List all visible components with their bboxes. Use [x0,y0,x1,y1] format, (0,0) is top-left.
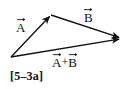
vector-addition-figure: A B A + B [5–3a] [0,0,140,89]
vector-a-letter: A [16,21,25,34]
vector-sum-operator: + [61,52,68,68]
vector-a-symbol: A [16,17,25,34]
vector-a-label: A [16,17,25,35]
vector-sum-first-symbol: A [52,52,61,69]
figure-caption: [5–3a] [10,69,43,84]
vector-b-letter: B [84,11,93,24]
vector-sum-second-letter: B [68,56,77,69]
vector-b-symbol: B [84,7,93,24]
vector-sum-label: A + B [52,52,77,70]
vector-sum-first-letter: A [52,56,61,69]
vector-b-label: B [84,7,93,25]
vector-sum-second-symbol: B [68,52,77,69]
